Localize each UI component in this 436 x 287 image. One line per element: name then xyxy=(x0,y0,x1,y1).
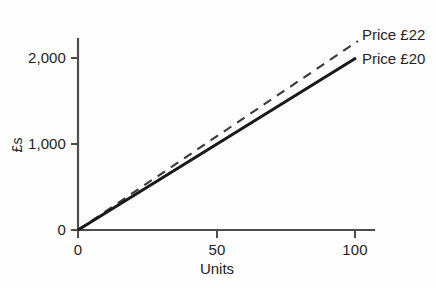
y-axis-title: £s xyxy=(9,125,25,165)
x-tick-label-0: 0 xyxy=(54,241,102,258)
x-axis-title: Units xyxy=(177,260,257,277)
x-tick-label-100: 100 xyxy=(331,241,379,258)
series-label-price-20: Price £20 xyxy=(362,50,425,67)
y-tick-label-2000: 2,000 xyxy=(8,49,66,66)
series-line-price-20 xyxy=(78,58,356,230)
chart-figure: 2,000 1,000 0 0 50 100 £s Units Price £2… xyxy=(0,0,436,287)
y-tick-label-0: 0 xyxy=(8,221,66,238)
series-label-price-22: Price £22 xyxy=(362,26,425,43)
series-line-price-22 xyxy=(78,41,358,230)
x-tick-label-50: 50 xyxy=(193,241,241,258)
